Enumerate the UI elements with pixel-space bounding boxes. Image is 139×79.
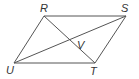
parallelogram-diagram: R S U T V (0, 0, 139, 79)
side-ur (14, 16, 44, 63)
vertex-label-s: S (121, 2, 129, 14)
intersection-label-v: V (77, 39, 86, 51)
vertex-label-u: U (6, 64, 14, 76)
vertex-label-t: T (90, 65, 98, 77)
diagonal-su (14, 16, 126, 63)
vertex-label-r: R (40, 2, 48, 14)
side-st (95, 16, 126, 63)
